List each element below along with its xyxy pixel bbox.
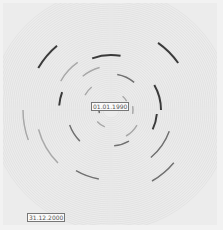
chart-frame: 01.01.1990 31.12.2000	[3, 3, 217, 225]
event-segment	[23, 110, 28, 140]
event-segment	[92, 55, 120, 58]
end-date-label: 31.12.2000	[27, 213, 65, 222]
start-date-label: 01.01.1990	[91, 102, 129, 111]
radial-timeline-chart	[3, 3, 217, 225]
